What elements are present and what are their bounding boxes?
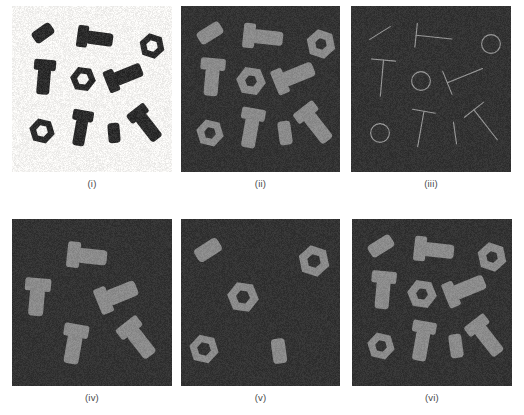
panel-ii-image (181, 6, 340, 172)
panel-iv (12, 219, 172, 386)
panel-vi (352, 219, 512, 386)
panel-ii-caption: (ii) (181, 178, 340, 190)
panel-v-caption: (v) (181, 392, 340, 404)
panel-iv-image (12, 219, 172, 386)
panel-v-image (181, 219, 340, 386)
figure-container: (i) (ii) (iii) (iv) (v) (vi) (0, 0, 524, 415)
panel-vi-caption: (vi) (352, 392, 512, 404)
panel-iii-image (351, 6, 511, 172)
panel-i (12, 6, 172, 172)
panel-i-image (12, 6, 172, 172)
panel-vi-image (352, 219, 512, 386)
panel-iii (351, 6, 511, 172)
panel-iii-caption: (iii) (351, 178, 511, 190)
panel-i-caption: (i) (12, 178, 172, 190)
panel-v (181, 219, 340, 386)
panel-iv-caption: (iv) (12, 392, 172, 404)
panel-ii (181, 6, 340, 172)
